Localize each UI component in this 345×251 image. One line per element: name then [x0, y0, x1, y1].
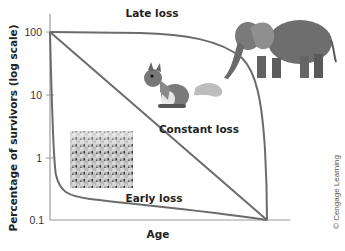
elephant-illustration — [224, 20, 336, 79]
tick-label-0.1: 0.1 — [29, 214, 44, 226]
tick-label-10: 10 — [30, 89, 42, 101]
tick-label-100: 100 — [24, 26, 42, 38]
x-axis-label: Age — [147, 228, 170, 240]
tick-label-1: 1 — [36, 152, 42, 164]
squirrel-illustration — [144, 62, 222, 108]
constant-loss-label: Constant loss — [159, 123, 239, 135]
y-axis-label: Percentage of survivors (log scale) — [7, 24, 19, 231]
credit-text: © Cengage Learning — [332, 155, 341, 229]
late-loss-label: Late loss — [126, 7, 179, 19]
survivorship-chart: 100 10 1 0.1 Percentage of survivors (lo… — [0, 0, 345, 251]
grass-illustration — [70, 131, 133, 188]
early-loss-label: Early loss — [126, 192, 183, 204]
